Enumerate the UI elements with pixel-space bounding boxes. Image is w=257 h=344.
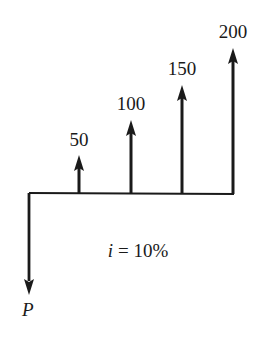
cash-flow-arrow-150 [177, 85, 187, 194]
present-value-label: P [21, 299, 34, 320]
interest-rate-label: i= 10% [108, 240, 169, 261]
cash-flow-label-200: 200 [219, 21, 248, 42]
cash-flow-arrow-50 [74, 155, 84, 193]
cash-flow-diagram: P 50 100 150 200 i= 10% [0, 0, 257, 344]
cash-flow-arrow-100 [126, 120, 136, 194]
present-value-arrow [24, 193, 34, 295]
cash-flow-label-50: 50 [70, 129, 89, 150]
interest-value: = 10% [118, 240, 168, 261]
interest-var: i [108, 240, 113, 261]
cash-flow-label-150: 150 [168, 58, 197, 79]
cash-flow-label-100: 100 [117, 93, 146, 114]
cash-flow-arrow-200 [228, 48, 238, 194]
arrow-down-icon [24, 279, 34, 295]
